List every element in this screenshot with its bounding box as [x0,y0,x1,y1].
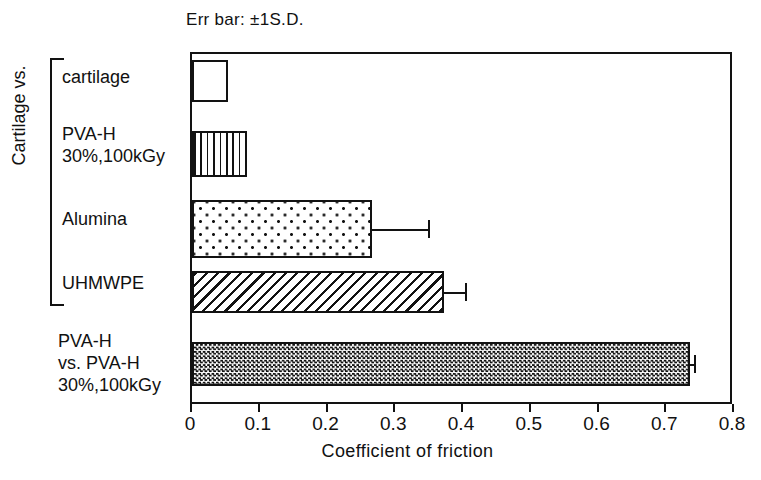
cartilage-group-bracket [50,58,64,306]
plot-area [190,52,732,404]
category-label-alumina: Alumina [62,208,127,230]
error-cap-uhmwpe [465,283,467,301]
error-bar-alumina [372,229,428,231]
bar-pva-h-vs-pva-h [192,342,690,386]
bar-pva-h [192,131,247,177]
category-label-uhmwpe: UHMWPE [62,272,144,294]
bar-uhmwpe [192,271,444,313]
x-tick-label-3: 0.3 [380,413,406,435]
x-tick-5 [529,404,531,412]
category-label-cartilage: cartilage [62,66,130,88]
x-tick-label-0: 0 [185,413,196,435]
x-axis-title: Coefficient of friction [0,441,761,462]
x-tick-0 [190,404,192,412]
x-tick-3 [393,404,395,412]
x-tick-7 [664,404,666,412]
error-bar-uhmwpe [444,292,465,294]
x-tick-label-6: 0.6 [583,413,609,435]
bar-cartilage [192,60,228,102]
error-cap-pva-h-vs-pva-h [694,355,696,373]
x-tick-4 [461,404,463,412]
x-tick-8 [732,404,734,412]
x-axis-title-text: Coefficient of friction [268,441,494,461]
category-label-pva-h: PVA-H 30%,100kGy [62,123,165,167]
x-tick-label-2: 0.2 [312,413,338,435]
error-bar-note: Err bar: ±1S.D. [186,10,304,30]
x-tick-label-4: 0.4 [448,413,474,435]
category-label-pva-h-vs-pva-h: PVA-H vs. PVA-H 30%,100kGy [58,330,161,396]
error-cap-alumina [428,220,430,238]
friction-bar-chart: Err bar: ±1S.D. Cartilage vs. cartilage … [0,0,761,480]
group-axis-label: Cartilage vs. [9,36,30,196]
x-tick-label-1: 0.1 [245,413,271,435]
x-tick-1 [258,404,260,412]
x-tick-label-5: 0.5 [516,413,542,435]
x-tick-6 [597,404,599,412]
bar-alumina [192,200,372,258]
x-tick-2 [326,404,328,412]
x-tick-label-8: 0.8 [719,413,745,435]
x-tick-label-7: 0.7 [651,413,677,435]
